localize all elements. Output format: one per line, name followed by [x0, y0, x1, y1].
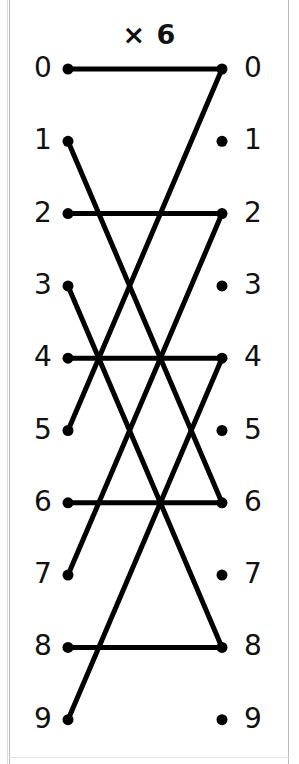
node-dot-left-9[interactable]	[63, 714, 74, 725]
node-dot-right-3[interactable]	[217, 280, 228, 291]
node-dot-right-6[interactable]	[217, 497, 228, 508]
node-label-right-5: 5	[240, 416, 266, 444]
node-label-left-5: 5	[30, 416, 56, 444]
edge-9-to-4	[68, 358, 222, 720]
node-label-right-9: 9	[240, 705, 266, 733]
node-dot-right-1[interactable]	[217, 136, 228, 147]
node-label-right-0: 0	[240, 54, 266, 82]
edge-group	[68, 69, 222, 720]
node-dot-right-0[interactable]	[217, 64, 228, 75]
edge-1-to-6	[68, 141, 222, 503]
node-label-left-4: 4	[30, 343, 56, 371]
node-label-right-6: 6	[240, 488, 266, 516]
node-dot-left-1[interactable]	[63, 136, 74, 147]
edge-7-to-2	[68, 214, 222, 575]
node-label-left-0: 0	[30, 54, 56, 82]
node-dot-right-2[interactable]	[217, 208, 228, 219]
node-label-right-2: 2	[240, 199, 266, 227]
node-dot-right-4[interactable]	[217, 353, 228, 364]
node-dot-right-9[interactable]	[217, 714, 228, 725]
node-label-right-7: 7	[240, 560, 266, 588]
node-dot-left-7[interactable]	[63, 570, 74, 581]
node-dot-left-3[interactable]	[63, 280, 74, 291]
node-label-left-7: 7	[30, 560, 56, 588]
node-label-left-9: 9	[30, 705, 56, 733]
node-dot-right-5[interactable]	[217, 425, 228, 436]
node-label-right-3: 3	[240, 271, 266, 299]
node-label-left-1: 1	[30, 126, 56, 154]
edge-5-to-0	[68, 69, 222, 431]
node-dot-left-4[interactable]	[63, 353, 74, 364]
node-label-left-3: 3	[30, 271, 56, 299]
node-label-right-8: 8	[240, 632, 266, 660]
node-dot-left-8[interactable]	[63, 642, 74, 653]
node-dot-left-6[interactable]	[63, 497, 74, 508]
node-dot-right-8[interactable]	[217, 642, 228, 653]
node-dot-right-7[interactable]	[217, 570, 228, 581]
node-dot-left-2[interactable]	[63, 208, 74, 219]
node-dot-left-5[interactable]	[63, 425, 74, 436]
node-label-left-6: 6	[30, 488, 56, 516]
node-label-left-8: 8	[30, 632, 56, 660]
diagram-canvas: × 6 0123456789 0123456789	[0, 0, 299, 764]
node-label-left-2: 2	[30, 199, 56, 227]
node-dot-left-0[interactable]	[63, 64, 74, 75]
edge-3-to-8	[68, 286, 222, 648]
node-label-right-1: 1	[240, 126, 266, 154]
node-label-right-4: 4	[240, 343, 266, 371]
